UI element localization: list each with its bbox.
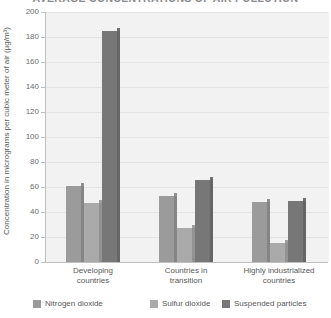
y-axis-tick-label: 60 bbox=[30, 183, 39, 191]
y-axis-tick-mark bbox=[41, 112, 45, 113]
y-axis-tick-label: 0 bbox=[35, 258, 39, 266]
bar bbox=[66, 186, 84, 262]
y-axis-tick-label: 100 bbox=[26, 133, 39, 141]
bar-face bbox=[159, 196, 174, 262]
bar-top bbox=[210, 177, 213, 180]
bar-side bbox=[303, 201, 306, 262]
bar-face bbox=[102, 31, 117, 262]
bar bbox=[177, 228, 195, 262]
bar-side bbox=[117, 31, 120, 262]
bar-top bbox=[303, 198, 306, 201]
gridline bbox=[46, 187, 329, 188]
bar-face bbox=[270, 243, 285, 262]
y-axis-tick-mark bbox=[41, 12, 45, 13]
bar-face bbox=[288, 201, 303, 262]
bar-top bbox=[81, 183, 84, 186]
y-axis-tick-mark bbox=[41, 262, 45, 263]
y-axis-tick-mark bbox=[41, 212, 45, 213]
gridline bbox=[46, 137, 329, 138]
legend-swatch-icon bbox=[150, 300, 158, 308]
y-axis-tick-label: 20 bbox=[30, 233, 39, 241]
bar bbox=[270, 243, 288, 262]
bar-face bbox=[66, 186, 81, 262]
legend-label: Sulfur dioxide bbox=[162, 299, 210, 309]
x-axis-category-label: Developingcountries bbox=[43, 266, 143, 286]
x-axis-line bbox=[45, 262, 328, 263]
bar-face bbox=[252, 202, 267, 262]
gridline bbox=[46, 37, 329, 38]
x-axis-category-label-line: Developing bbox=[43, 266, 143, 276]
x-axis-category-label-line: countries bbox=[43, 276, 143, 286]
bar-face bbox=[84, 203, 99, 262]
bar bbox=[195, 180, 213, 263]
y-axis-tick-label: 160 bbox=[26, 58, 39, 66]
bar-face bbox=[195, 180, 210, 263]
gridline bbox=[46, 62, 329, 63]
chart-legend: Nitrogen dioxideSulfur dioxideSuspended … bbox=[0, 297, 331, 311]
gridline bbox=[46, 87, 329, 88]
x-axis-category-label: Highly industrializedcountries bbox=[229, 266, 329, 286]
bar bbox=[252, 202, 270, 262]
gridline bbox=[46, 12, 329, 13]
legend-item[interactable]: Nitrogen dioxide bbox=[33, 297, 103, 311]
x-axis-category-label-line: Highly industrialized bbox=[229, 266, 329, 276]
bar-top bbox=[117, 28, 120, 31]
bar-top bbox=[174, 193, 177, 196]
y-axis-tick-mark bbox=[41, 62, 45, 63]
y-axis-tick-label: 80 bbox=[30, 158, 39, 166]
y-axis-tick-mark bbox=[41, 137, 45, 138]
bar bbox=[102, 31, 120, 262]
legend-item[interactable]: Suspended particles bbox=[222, 297, 307, 311]
y-axis-tick-mark bbox=[41, 187, 45, 188]
bar bbox=[159, 196, 177, 262]
y-axis-tick-mark bbox=[41, 87, 45, 88]
x-axis-category-label-line: countries bbox=[229, 276, 329, 286]
x-axis-category-label-line: Countries in bbox=[136, 266, 236, 276]
bar-side bbox=[210, 180, 213, 263]
bar bbox=[288, 201, 306, 262]
legend-label: Nitrogen dioxide bbox=[45, 299, 103, 309]
gridline bbox=[46, 162, 329, 163]
y-axis-title: Concentration in micrograms per cubic me… bbox=[0, 0, 13, 262]
bar bbox=[84, 203, 102, 262]
legend-label: Suspended particles bbox=[234, 299, 307, 309]
chart-title: AVERAGE CONCENTRATIONS OF AIR POLLUTION bbox=[0, 0, 331, 4]
legend-swatch-icon bbox=[33, 300, 41, 308]
gridline bbox=[46, 112, 329, 113]
legend-swatch-icon bbox=[222, 300, 230, 308]
y-axis-tick-label: 40 bbox=[30, 208, 39, 216]
y-axis-tick-label: 180 bbox=[26, 33, 39, 41]
y-axis-tick-label: 140 bbox=[26, 83, 39, 91]
y-axis-tick-mark bbox=[41, 237, 45, 238]
bar-face bbox=[177, 228, 192, 262]
y-axis-tick-label: 120 bbox=[26, 108, 39, 116]
bar-top bbox=[267, 199, 270, 202]
legend-item[interactable]: Sulfur dioxide bbox=[150, 297, 210, 311]
y-axis-tick-label: 200 bbox=[26, 8, 39, 16]
x-axis-category-label-line: transition bbox=[136, 276, 236, 286]
y-axis-tick-mark bbox=[41, 37, 45, 38]
x-axis-category-label: Countries intransition bbox=[136, 266, 236, 286]
y-axis-tick-mark bbox=[41, 162, 45, 163]
